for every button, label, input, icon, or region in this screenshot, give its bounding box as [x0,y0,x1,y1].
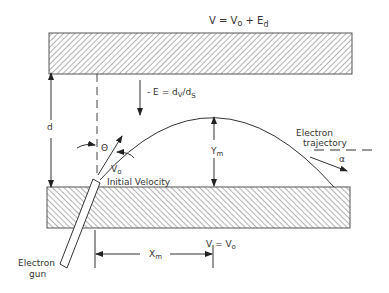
separation-label: d [47,122,53,132]
theta-label: Θ [101,143,108,153]
alpha-label: α [339,154,345,164]
trajectory-label-line1: Electron [296,128,333,138]
trajectory-label-line2: trajectory [303,138,347,148]
gun-label-line1: Electron [18,258,55,268]
top-plate [49,33,352,74]
diagram-canvas: V = Vo + Ed - E = dV/dS d Θ Vo Initial V… [0,0,389,293]
gun-label-line2: gun [29,269,46,279]
top-plate-voltage-label: V = Vo + Ed [209,15,268,29]
ym-label: Ym [210,146,224,158]
field-label: - E = dV/dS [147,87,196,100]
theta-arc-left [77,144,95,148]
initial-velocity-label: Initial Velocity [107,177,171,187]
velocity-label: Vo [111,164,121,176]
bottom-plate-voltage-label: V = Vo [206,239,236,251]
xm-label: Xm [149,249,162,261]
